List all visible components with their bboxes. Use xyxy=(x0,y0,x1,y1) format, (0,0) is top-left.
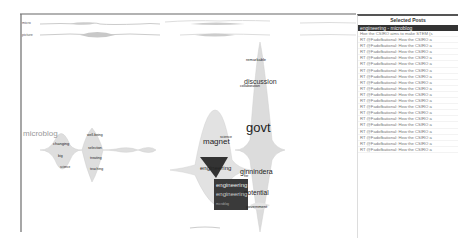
word-label[interactable]: selection xyxy=(88,147,102,151)
word-label[interactable]: engineering xyxy=(216,191,247,197)
word-label[interactable]: fter xyxy=(244,175,248,178)
overview-stream-micro[interactable] xyxy=(40,23,160,25)
selected-posts-panel: Selected Posts engineering - microblog H… xyxy=(357,14,458,238)
word-label[interactable]: big xyxy=(58,155,63,159)
word-label[interactable]: engineering xyxy=(200,165,231,171)
overview-row-label: micro xyxy=(22,21,31,25)
stream-canvas[interactable] xyxy=(0,0,356,238)
word-label[interactable]: changing xyxy=(53,142,69,146)
word-label[interactable]: microblog xyxy=(216,203,229,206)
word-label[interactable]: well-being xyxy=(87,134,103,138)
word-label[interactable]: treating xyxy=(90,157,102,161)
word-label[interactable]: science xyxy=(60,166,70,169)
word-label[interactable]: remarkable xyxy=(246,58,266,62)
topic-stream-visualization[interactable]: micro picture microblog changing big sci… xyxy=(0,0,356,238)
word-label[interactable]: teaching xyxy=(90,168,103,172)
overview-row-label: picture xyxy=(22,33,33,37)
word-label[interactable]: potential xyxy=(244,190,269,197)
word-label[interactable]: collaboration xyxy=(240,85,260,89)
panel-title: Selected Posts xyxy=(358,16,458,25)
topic-label-microblog[interactable]: microblog xyxy=(23,130,58,138)
overview-stream-picture[interactable] xyxy=(80,32,115,38)
post-row[interactable]: RT @Fadofbational: How the CSIRO a xyxy=(358,147,458,153)
topic-label-govt[interactable]: govt xyxy=(246,121,271,134)
word-label[interactable]: science xyxy=(220,136,232,140)
posts-list[interactable]: Hoe the CSIRO aims to make STEM (s RT @F… xyxy=(358,31,458,153)
word-label[interactable]: government xyxy=(246,205,267,209)
word-label[interactable]: engineering xyxy=(216,182,247,188)
